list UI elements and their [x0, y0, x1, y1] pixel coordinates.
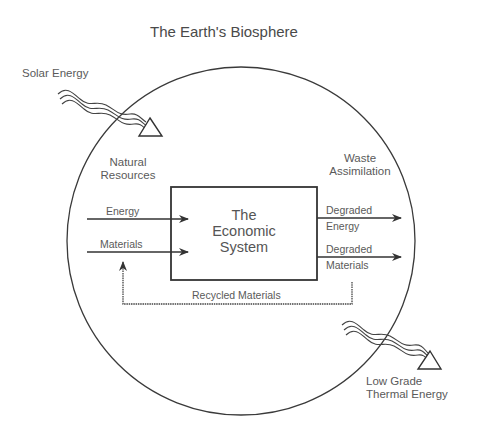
natural-resources-label: Natural Resources: [88, 156, 168, 182]
degraded-energy-label: Degraded Energy: [326, 203, 372, 235]
natural-resources-line1: Natural: [88, 156, 168, 169]
waste-line1: Waste: [320, 152, 400, 165]
system-line2: Economic: [171, 223, 317, 239]
degraded-energy-line1: Degraded: [326, 203, 372, 219]
solar-energy-label: Solar Energy: [22, 67, 88, 80]
system-line1: The: [171, 207, 317, 223]
energy-label: Energy: [106, 205, 139, 217]
degraded-materials-line1: Degraded: [326, 242, 372, 258]
degraded-energy-line2: Energy: [326, 219, 372, 235]
thermal-line2: Thermal Energy: [366, 388, 448, 401]
degraded-materials-line2: Materials: [326, 258, 372, 274]
diagram-title: The Earth's Biosphere: [150, 23, 298, 40]
materials-label: Materials: [100, 238, 143, 250]
solar-energy-wave-icon: [58, 90, 162, 136]
low-grade-thermal-energy-label: Low Grade Thermal Energy: [366, 375, 448, 401]
natural-resources-line2: Resources: [88, 169, 168, 182]
recycled-materials-label: Recycled Materials: [192, 289, 281, 301]
waste-assimilation-label: Waste Assimilation: [320, 152, 400, 178]
system-line3: System: [171, 239, 317, 255]
degraded-materials-label: Degraded Materials: [326, 242, 372, 274]
thermal-line1: Low Grade: [366, 375, 448, 388]
economic-system-label: The Economic System: [171, 207, 317, 256]
waste-line2: Assimilation: [320, 165, 400, 178]
